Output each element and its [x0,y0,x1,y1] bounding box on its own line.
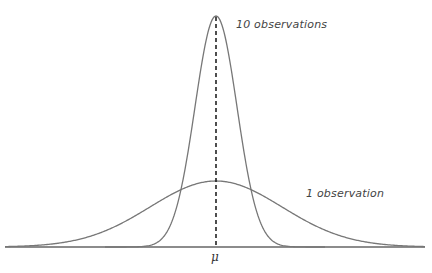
label-1-observation: 1 observation [306,187,384,200]
sampling-distribution-diagram [0,0,432,273]
mean-symbol: μ [211,250,219,264]
label-10-observations: 10 observations [236,18,327,31]
